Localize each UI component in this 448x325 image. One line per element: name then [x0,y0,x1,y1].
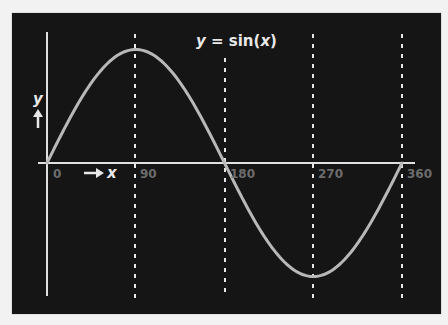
tick-0: 0 [53,167,61,181]
chart-title: y = sin(x) [196,32,277,50]
tick-180: 180 [230,167,255,181]
y-axis-label: y [33,90,44,108]
x-axis-label: x [106,164,118,182]
tick-90: 90 [140,167,157,181]
right-arrow-icon [84,168,104,178]
title-eq: = sin( [206,32,261,50]
tick-270: 270 [318,167,343,181]
sine-chart: y = sin(x) y x 0 90 180 270 360 [0,0,448,325]
tick-360: 360 [407,167,432,181]
up-arrow-icon [33,109,43,128]
title-close: ) [270,32,277,50]
